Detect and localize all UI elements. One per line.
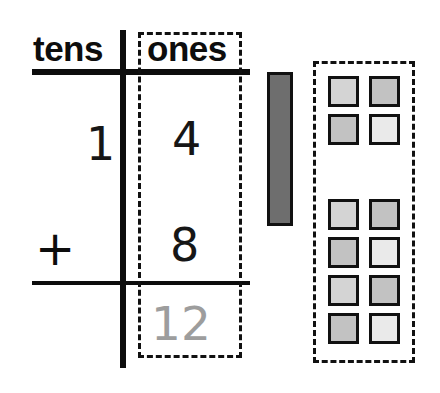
- place-value-chart: tens ones 1 4 + 8 12: [0, 0, 265, 393]
- plus-operator: +: [35, 224, 75, 272]
- unit-cube: [369, 313, 400, 344]
- unit-cube: [328, 76, 359, 107]
- unit-cube: [369, 114, 400, 145]
- unit-group-first-addend: [316, 76, 412, 145]
- unit-group-second-addend: [316, 199, 412, 344]
- ones-digit-row1: 4: [172, 116, 201, 162]
- unit-cube: [328, 199, 359, 230]
- unit-cube: [328, 313, 359, 344]
- column-divider-rule: [120, 30, 126, 368]
- ones-digit-row2: 8: [170, 222, 199, 268]
- unit-cube: [369, 199, 400, 230]
- tens-digit-row1: 1: [86, 121, 115, 167]
- unit-cube: [328, 237, 359, 268]
- unit-cube: [369, 275, 400, 306]
- column-header-tens: tens: [33, 31, 103, 66]
- unit-cubes-highlight-box: [313, 61, 415, 363]
- ten-rod-block: [267, 72, 293, 226]
- ones-sum-answer: 12: [151, 300, 211, 347]
- unit-cube: [369, 237, 400, 268]
- unit-cube: [328, 275, 359, 306]
- unit-cube: [369, 76, 400, 107]
- place-value-worksheet: tens ones 1 4 + 8 12: [0, 0, 440, 393]
- column-header-ones: ones: [147, 31, 227, 66]
- unit-cube: [328, 114, 359, 145]
